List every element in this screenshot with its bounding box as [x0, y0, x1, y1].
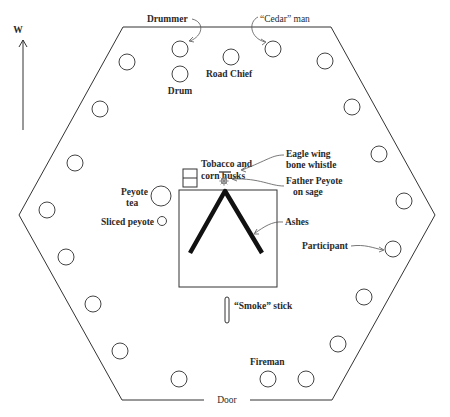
compass: W [13, 25, 27, 130]
drum-label: Drum [168, 86, 192, 96]
seat-circle [317, 53, 333, 69]
tipi-diagram: W Drummer “Cedar” man Drum Road Chief [0, 0, 450, 417]
altar-square [179, 190, 277, 287]
ashes-crescent [190, 191, 262, 253]
seat-circle [330, 336, 346, 352]
drum-circle [172, 66, 188, 82]
road-chief-label: Road Chief [206, 69, 253, 79]
drummer-arrow-icon [190, 19, 201, 41]
peyote-tea-label-2: tea [126, 198, 138, 208]
road-chief-seat [223, 49, 239, 65]
seat-circle [67, 155, 83, 171]
seat-circle [344, 99, 360, 115]
cedar-man-seat [265, 41, 281, 57]
drummer-seat [172, 41, 188, 57]
smoke-stick-icon [225, 297, 229, 323]
seat-circle [396, 193, 412, 209]
drummer-label: Drummer [147, 14, 188, 24]
peyote-tea-label-1: Peyote [121, 187, 148, 197]
seat-circle [92, 101, 108, 117]
seat-circle [298, 371, 314, 387]
participant-label: Participant [302, 241, 349, 251]
participant-seat [385, 241, 401, 257]
seat-circle [171, 371, 187, 387]
fireman-seat [260, 371, 276, 387]
seat-circle [356, 289, 372, 305]
ashes-label: Ashes [285, 217, 309, 227]
compass-label: W [13, 25, 23, 35]
participant-arrow-icon [351, 245, 383, 250]
eagle-label-2: bone whistle [286, 160, 336, 170]
seat-circle [85, 296, 101, 312]
ashes-arrow-icon [255, 222, 283, 233]
peyote-tea-icon [151, 186, 171, 206]
cedar-man-label: “Cedar” man [260, 14, 310, 24]
seat-circle [112, 343, 128, 359]
participant-seats [39, 41, 412, 387]
sliced-peyote-label: Sliced peyote [101, 217, 154, 227]
fireman-label: Fireman [250, 357, 285, 367]
tipi-outline [19, 27, 435, 400]
father-label-2: on sage [293, 187, 323, 197]
sliced-peyote-icon [158, 217, 167, 226]
arrowhead-icon [261, 39, 266, 45]
seat-circle [371, 146, 387, 162]
father-label-1: Father Peyote [286, 176, 343, 186]
eagle-label-1: Eagle wing [286, 149, 331, 159]
seat-circle [58, 249, 74, 265]
arrowhead-icon [254, 229, 259, 234]
door-label: Door [217, 395, 237, 405]
seat-circle [119, 54, 135, 70]
smoke-stick-label: “Smoke” stick [234, 301, 293, 311]
father-peyote-icon [219, 176, 229, 186]
seat-circle [39, 202, 55, 218]
